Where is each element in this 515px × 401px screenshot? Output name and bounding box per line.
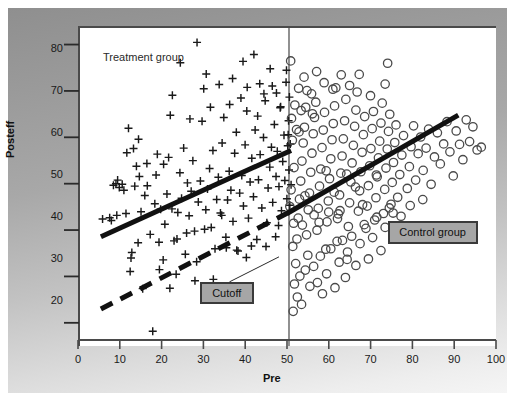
- circle-marker: [383, 59, 391, 67]
- plus-marker: [272, 172, 280, 180]
- plus-marker: [260, 90, 268, 98]
- plus-marker: [239, 57, 247, 65]
- plus-marker: [232, 128, 240, 136]
- circle-marker: [419, 195, 427, 203]
- circle-marker: [419, 166, 427, 174]
- circle-marker: [345, 81, 353, 89]
- plus-marker: [176, 169, 184, 177]
- circle-marker: [309, 130, 317, 138]
- plus-marker: [242, 254, 250, 262]
- y-tick-50: 50: [8, 168, 63, 180]
- circle-marker: [329, 119, 337, 127]
- plus-marker: [244, 214, 252, 222]
- plus-marker: [218, 139, 226, 147]
- plus-marker: [137, 208, 145, 216]
- y-axis-ticks: [58, 18, 80, 338]
- circle-marker: [352, 261, 360, 269]
- circle-marker: [295, 128, 303, 136]
- circle-marker: [446, 148, 454, 156]
- plus-marker: [215, 81, 223, 89]
- circle-marker: [368, 233, 376, 241]
- plus-marker: [122, 210, 130, 218]
- circle-marker: [318, 143, 326, 151]
- plus-marker: [209, 146, 217, 154]
- plus-marker: [131, 182, 139, 190]
- plus-marker: [279, 158, 287, 166]
- circle-marker: [356, 239, 364, 247]
- circle-marker: [391, 138, 399, 146]
- circle-marker: [455, 140, 463, 148]
- circle-marker: [469, 123, 477, 131]
- series-treatment: [99, 38, 296, 335]
- plus-marker: [135, 172, 143, 180]
- circle-marker: [310, 211, 318, 219]
- plus-marker: [160, 160, 168, 168]
- circle-marker: [364, 181, 372, 189]
- control-group-callout: Control group: [388, 221, 478, 244]
- circle-marker: [364, 255, 372, 263]
- x-tick-100: 100: [476, 353, 515, 365]
- plus-marker: [185, 212, 193, 220]
- plus-marker: [226, 101, 234, 109]
- y-tick-60: 60: [8, 126, 63, 138]
- circle-marker: [348, 232, 356, 240]
- circle-marker: [360, 112, 368, 120]
- plus-marker: [239, 202, 247, 210]
- circle-marker: [312, 67, 320, 75]
- y-tick-30: 30: [8, 252, 63, 264]
- plus-marker: [231, 149, 239, 157]
- circle-marker: [302, 231, 310, 239]
- circle-marker: [315, 182, 323, 190]
- circle-marker: [342, 95, 350, 103]
- circle-marker: [309, 262, 317, 270]
- circle-marker: [312, 98, 320, 106]
- circle-marker: [290, 280, 298, 288]
- plus-marker: [260, 133, 268, 141]
- circle-marker: [315, 218, 323, 226]
- plus-marker: [275, 222, 283, 230]
- circle-marker: [339, 135, 347, 143]
- circle-marker: [300, 123, 308, 131]
- plus-marker: [254, 176, 262, 184]
- scatter-canvas: [80, 28, 496, 346]
- circle-marker: [320, 108, 328, 116]
- circle-marker: [289, 219, 297, 227]
- x-tick-40: 40: [225, 353, 265, 365]
- circle-marker: [289, 242, 297, 250]
- plus-marker: [241, 141, 249, 149]
- circle-marker: [338, 236, 346, 244]
- circle-marker: [353, 88, 361, 96]
- plus-marker: [143, 182, 151, 190]
- cutoff-callout: Cutoff: [200, 282, 254, 304]
- plus-marker: [256, 151, 264, 159]
- plus-marker: [253, 235, 261, 243]
- circle-marker: [337, 71, 345, 79]
- plus-marker: [225, 167, 233, 175]
- plus-marker: [206, 165, 214, 173]
- plus-marker: [152, 171, 160, 179]
- plus-marker: [258, 204, 266, 212]
- plus-marker: [113, 211, 121, 219]
- x-tick-80: 80: [392, 353, 432, 365]
- plus-marker: [191, 277, 199, 285]
- circle-marker: [397, 212, 405, 220]
- circle-marker: [377, 119, 385, 127]
- plus-marker: [172, 270, 180, 278]
- plot-area: [78, 26, 496, 346]
- plus-marker: [243, 107, 251, 115]
- circle-marker: [316, 252, 324, 260]
- plus-marker: [234, 247, 242, 255]
- plus-marker: [266, 65, 274, 73]
- plus-marker: [229, 217, 237, 225]
- circle-marker: [325, 208, 333, 216]
- circle-marker: [414, 149, 422, 157]
- plus-marker: [222, 233, 230, 241]
- x-tick-70: 70: [351, 353, 391, 365]
- y-tick-20: 20: [8, 294, 63, 306]
- circle-marker: [393, 193, 401, 201]
- plus-marker: [143, 159, 151, 167]
- plus-marker: [262, 242, 270, 250]
- circle-marker: [341, 273, 349, 281]
- circle-marker: [369, 107, 377, 115]
- circle-marker: [328, 136, 336, 144]
